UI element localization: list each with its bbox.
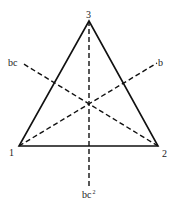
vertex-2-label: 2 (162, 148, 167, 159)
axis-bc-label: bc (8, 57, 18, 68)
axis-b-label: b (158, 57, 163, 68)
axis-bc2-superscript: 2 (92, 189, 95, 195)
axis-bc2-label: bc2 (82, 189, 95, 200)
vertex-1-label: 1 (9, 147, 14, 158)
vertex-3-label: 3 (86, 9, 91, 20)
triangle-diagram: 3 1 2 bc b bc2 (0, 0, 177, 207)
axis-bc2-base: bc (82, 189, 92, 200)
